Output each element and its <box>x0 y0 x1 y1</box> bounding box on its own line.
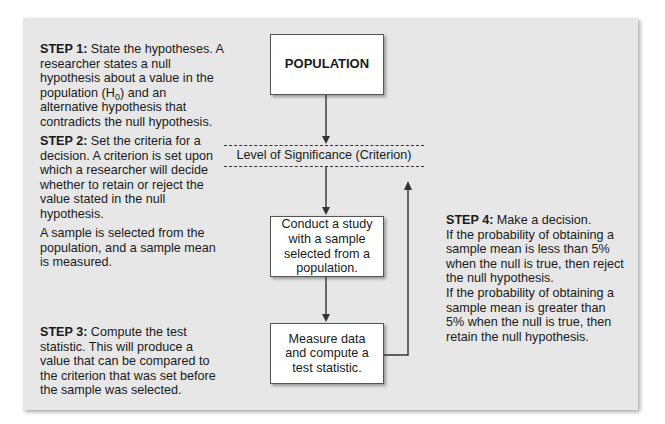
step4-reject-rule: If the probability of obtaining a sample… <box>446 228 626 286</box>
flow-arrows <box>0 0 665 424</box>
step4-retain-rule: If the probability of obtaining a sample… <box>446 286 626 344</box>
step4-text: STEP 4: Make a decision. If the probabil… <box>446 213 626 344</box>
arrow-measure-to-criterion-feedback <box>384 181 412 355</box>
arrow-population-to-criterion <box>322 95 330 144</box>
arrow-criterion-to-study <box>322 167 330 215</box>
step4-label: STEP 4: <box>446 213 493 227</box>
arrow-study-to-measure <box>322 277 330 322</box>
step4-body: Make a decision. <box>493 213 591 227</box>
